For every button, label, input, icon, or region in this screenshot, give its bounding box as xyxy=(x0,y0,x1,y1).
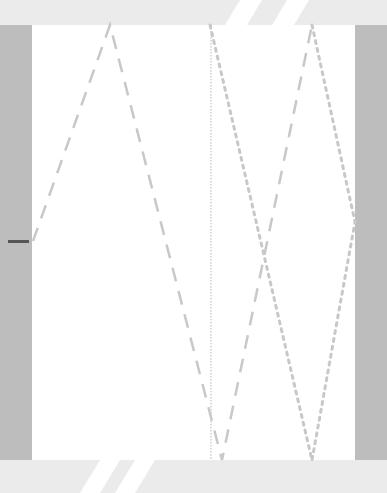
dotted-trajectory-1 xyxy=(210,25,312,460)
dashed-trajectory xyxy=(33,25,312,460)
top-stripe-1 xyxy=(225,0,262,25)
paddle-marker[interactable] xyxy=(8,240,29,243)
trajectory-field xyxy=(0,0,387,493)
dotted-trajectory-2 xyxy=(312,25,355,460)
top-stripe-2 xyxy=(272,0,309,25)
bottom-stripe-1 xyxy=(80,460,120,493)
bottom-stripe-2 xyxy=(115,460,155,493)
